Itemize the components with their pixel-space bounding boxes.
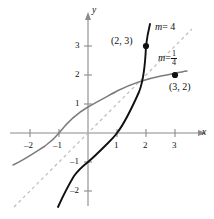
y-tick-label--1: –1 xyxy=(70,157,79,166)
x-tick-label-2: 2 xyxy=(143,141,148,150)
slope-value-a: = 4 xyxy=(162,21,175,32)
coordinate-plane xyxy=(0,0,214,219)
x-tick-label--2: –2 xyxy=(24,141,33,150)
point-2-3-marker xyxy=(143,43,149,49)
point-label-2-3: (2, 3) xyxy=(111,36,133,46)
slope-annotation-logarithmic: m=14 xyxy=(158,50,177,67)
fraction-denominator: 4 xyxy=(171,58,177,67)
fraction-numerator: 1 xyxy=(171,50,177,58)
graph-figure: x y –2 –1 1 2 3 3 2 1 –1 –2 (2, 3) (3, 2… xyxy=(0,0,214,219)
exponential-curve-series xyxy=(58,24,150,207)
x-axis-label: x xyxy=(202,128,206,138)
x-tick-label--1: –1 xyxy=(53,141,62,150)
y-tick-label-3: 3 xyxy=(75,41,80,50)
y-tick-label-2: 2 xyxy=(75,70,80,79)
x-tick-label-3: 3 xyxy=(172,141,177,150)
axes-group xyxy=(10,12,206,206)
y-axis-arrow xyxy=(85,12,91,20)
slope-fraction-b: 14 xyxy=(171,50,177,67)
point-label-3-2: (3, 2) xyxy=(169,82,191,92)
y-axis-label: y xyxy=(92,6,96,16)
point-3-2-marker xyxy=(172,72,178,78)
y-tick-label-1: 1 xyxy=(75,99,80,108)
x-tick-label-1: 1 xyxy=(114,141,119,150)
slope-annotation-exponential: m= 4 xyxy=(155,22,175,32)
y-tick-label--2: –2 xyxy=(70,186,79,195)
